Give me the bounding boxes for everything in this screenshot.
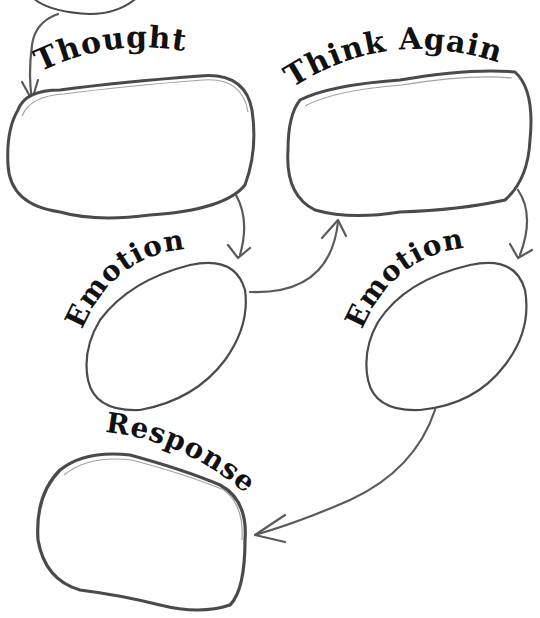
arrow-emotion-left-to-think-again	[250, 220, 346, 292]
diagram-canvas: Thought Think Again Emotion Emotion Resp…	[0, 0, 540, 618]
arrow-thought-to-emotion-left	[228, 195, 250, 258]
thought-box[interactable]	[8, 76, 254, 218]
previous-node-fragment	[30, 0, 140, 14]
think-again-box[interactable]	[288, 71, 531, 216]
arrow-think-again-to-emotion-right	[510, 190, 532, 258]
arrow-emotion-right-to-response	[255, 410, 435, 542]
thought-label: Thought	[29, 19, 190, 78]
